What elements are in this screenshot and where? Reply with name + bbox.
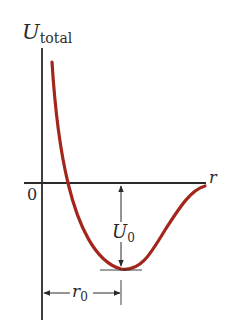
equilibrium-distance-label: r0 xyxy=(72,283,88,300)
y-axis-label: Utotal xyxy=(22,22,72,43)
potential-energy-diagram xyxy=(0,0,234,336)
x-axis-label: r xyxy=(209,170,217,186)
well-depth-label: U0 xyxy=(112,222,135,242)
origin-label: 0 xyxy=(27,187,37,203)
